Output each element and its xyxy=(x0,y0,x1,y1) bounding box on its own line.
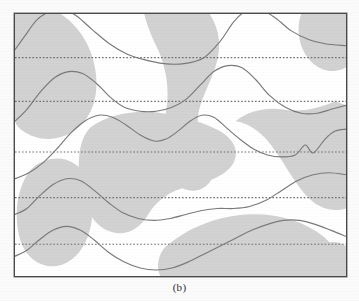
plot-frame xyxy=(14,13,347,277)
figure-root: (b) xyxy=(0,0,359,301)
plot-canvas xyxy=(15,14,346,276)
figure-caption: (b) xyxy=(0,281,359,293)
